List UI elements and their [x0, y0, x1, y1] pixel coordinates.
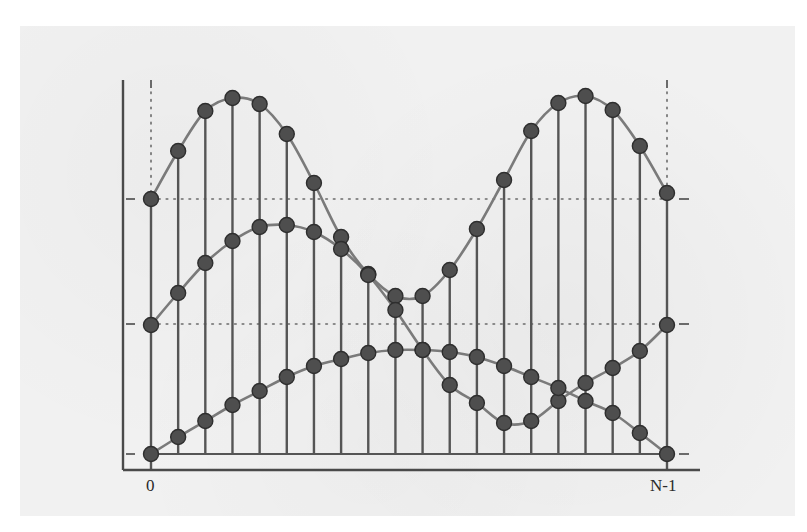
sample-marker — [279, 218, 294, 233]
sample-marker — [171, 286, 186, 301]
sample-marker — [660, 447, 675, 462]
sample-marker — [632, 426, 647, 441]
sample-marker — [442, 263, 457, 278]
sample-marker — [279, 370, 294, 385]
sample-marker — [442, 345, 457, 360]
sample-marker — [252, 384, 267, 399]
sample-marker — [306, 225, 321, 240]
sample-marker — [524, 414, 539, 429]
sample-marker — [497, 416, 512, 431]
sample-marker — [605, 406, 620, 421]
sample-marker — [334, 352, 349, 367]
sample-marker — [225, 234, 240, 249]
sample-marker — [415, 289, 430, 304]
sample-marker — [144, 192, 159, 207]
sample-marker — [415, 343, 430, 358]
sample-marker — [225, 398, 240, 413]
sample-marker — [524, 370, 539, 385]
series-curve-upper-double-hump — [151, 96, 667, 299]
sample-marker — [660, 186, 675, 201]
sample-marker — [388, 289, 403, 304]
sample-marker — [171, 430, 186, 445]
sample-marker — [361, 346, 376, 361]
stem-plot-figure — [0, 0, 807, 532]
x-label-n-minus-1: N-1 — [650, 476, 676, 496]
sample-marker — [388, 303, 403, 318]
sample-marker — [605, 103, 620, 118]
sample-marker — [578, 394, 593, 409]
sample-marker — [334, 242, 349, 257]
sample-marker — [442, 378, 457, 393]
sample-marker — [524, 124, 539, 139]
sample-marker — [144, 318, 159, 333]
sample-marker — [497, 173, 512, 188]
sample-marker — [279, 127, 294, 142]
sample-marker — [198, 256, 213, 271]
sample-marker — [198, 104, 213, 119]
x-label-zero: 0 — [146, 476, 155, 496]
sample-marker — [632, 139, 647, 154]
sample-marker — [497, 359, 512, 374]
sample-marker — [469, 350, 484, 365]
sample-marker — [252, 220, 267, 235]
sample-marker — [198, 414, 213, 429]
stem-lines — [151, 96, 667, 470]
sample-marker — [171, 144, 186, 159]
sample-marker — [252, 97, 267, 112]
sample-marker — [578, 89, 593, 104]
sample-marker — [469, 396, 484, 411]
sample-marker — [361, 268, 376, 283]
sample-marker — [225, 91, 240, 106]
sample-marker — [306, 176, 321, 191]
sample-marker — [660, 318, 675, 333]
sample-marker — [306, 359, 321, 374]
sample-marker — [551, 96, 566, 111]
sample-marker — [469, 222, 484, 237]
sample-marker — [388, 343, 403, 358]
sample-marker — [605, 361, 620, 376]
sample-marker — [551, 381, 566, 396]
sample-marker — [578, 376, 593, 391]
sample-marker — [144, 447, 159, 462]
sample-marker — [632, 344, 647, 359]
